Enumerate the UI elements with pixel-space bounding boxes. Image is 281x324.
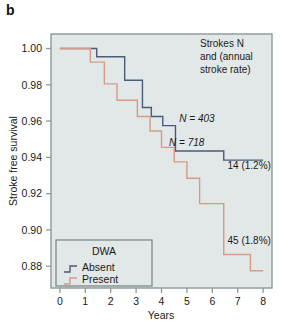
- annotation-endpoint-present: 45 (1.8%): [228, 235, 271, 246]
- annotation-endpoint-absent: 14 (1.2%): [228, 160, 271, 171]
- x-tick-label: 1: [82, 295, 88, 307]
- x-tick-label: 6: [209, 295, 215, 307]
- legend-label-present: Present: [82, 273, 118, 285]
- annotation-n-absent: N = 403: [179, 113, 215, 124]
- x-tick-label: 3: [133, 295, 139, 307]
- x-tick-label: 8: [260, 295, 266, 307]
- y-axis-ticks: 0.880.900.920.940.960.981.00: [22, 42, 51, 272]
- y-tick-label: 0.92: [22, 187, 43, 199]
- annotation-n-present: N = 718: [169, 137, 205, 148]
- chart-legend: DWA Absent Present: [56, 240, 152, 286]
- y-tick-label: 1.00: [22, 42, 43, 54]
- y-tick-label: 0.98: [22, 79, 43, 91]
- x-tick-label: 5: [184, 295, 190, 307]
- x-axis-title: Years: [148, 309, 174, 321]
- x-axis-ticks: 012345678: [57, 288, 266, 307]
- figure-panel-b: b 0.880.900.920.940.960.981.00 012345678…: [0, 0, 281, 324]
- y-tick-label: 0.96: [22, 115, 43, 127]
- x-tick-label: 0: [57, 295, 63, 307]
- x-tick-label: 7: [235, 295, 241, 307]
- x-tick-label: 2: [108, 295, 114, 307]
- header-note-line-3: stroke rate): [200, 64, 251, 75]
- x-tick-label: 4: [159, 295, 165, 307]
- y-axis-title: Stroke free survival: [7, 116, 19, 206]
- y-tick-label: 0.88: [22, 260, 43, 272]
- legend-label-absent: Absent: [82, 261, 115, 273]
- header-note-line-1: Strokes N: [200, 38, 244, 49]
- header-note-line-2: and (annual: [200, 51, 253, 62]
- y-tick-label: 0.90: [22, 224, 43, 236]
- y-tick-label: 0.94: [22, 151, 43, 163]
- stroke-free-survival-chart: 0.880.900.920.940.960.981.00 012345678 S…: [0, 0, 281, 324]
- legend-title: DWA: [92, 245, 116, 257]
